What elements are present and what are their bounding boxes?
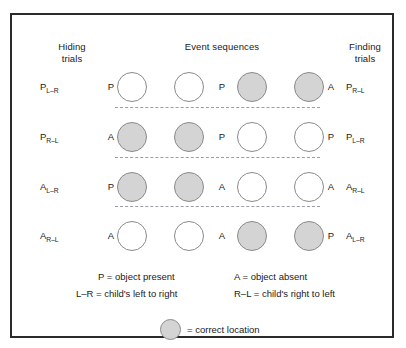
event-circle: [117, 72, 147, 102]
event-circle: [117, 122, 147, 152]
finding-trial-code-sub: L–R: [352, 137, 364, 144]
trial-row: AR–L A A P AL–R: [24, 212, 406, 260]
trial-row: PR–L A P P PL–R: [24, 113, 406, 161]
event-mid-label: A: [214, 212, 230, 260]
hiding-trial-code-sub: R–L: [46, 236, 58, 243]
event-circle: [294, 122, 324, 152]
finding-trial-pa: P: [322, 113, 340, 161]
figure-canvas: Hidingtrials Event sequences Findingtria…: [0, 0, 406, 348]
event-circle: [117, 172, 147, 202]
legend-correct-location: = correct location: [160, 318, 260, 340]
hiding-trial-code-sub: R–L: [46, 137, 58, 144]
event-circle: [237, 72, 267, 102]
legend-left-to-right: L–R = child's left to right: [76, 288, 177, 299]
event-circle: [294, 72, 324, 102]
event-circle: [294, 221, 324, 251]
trial-row: AL–R P A A AR–L: [24, 163, 406, 211]
legend-object-absent: A = object absent: [234, 271, 307, 282]
hiding-trial-code-sub: L–R: [46, 87, 58, 94]
hiding-trial-code-sub: L–R: [46, 187, 58, 194]
figure-frame: Hidingtrials Event sequences Findingtria…: [10, 13, 394, 338]
finding-trial-code-sub: L–R: [352, 236, 364, 243]
event-sequence-band: A: [116, 212, 338, 260]
event-circle: [174, 72, 204, 102]
column-header-event-sequences: Event sequences: [140, 41, 304, 53]
finding-trial-pa: A: [322, 63, 340, 111]
legend-right-to-left: R–L = child's right to left: [234, 288, 335, 299]
event-sequence-band: P: [116, 113, 338, 161]
legend-gray-circle-icon: [160, 319, 181, 340]
hiding-trial-code: PL–R: [40, 63, 94, 115]
event-mid-label: P: [214, 63, 230, 111]
finding-trial-code-sub: R–L: [352, 87, 364, 94]
finding-trial-code: AL–R: [346, 212, 400, 264]
event-circle: [237, 221, 267, 251]
finding-trial-pa: A: [322, 163, 340, 211]
finding-trial-code: AR–L: [346, 163, 400, 215]
finding-trial-code: PR–L: [346, 63, 400, 115]
event-circle: [237, 122, 267, 152]
hiding-trial-code: PR–L: [40, 113, 94, 165]
event-circle: [174, 221, 204, 251]
finding-trial-code-sub: R–L: [352, 187, 364, 194]
hiding-trial-code: AL–R: [40, 163, 94, 215]
event-sequence-band: A: [116, 163, 338, 211]
event-circle: [237, 172, 267, 202]
legend-correct-location-label: = correct location: [187, 324, 260, 335]
column-header-finding-trials: Findingtrials: [330, 41, 400, 64]
column-header-hiding-trials: Hidingtrials: [32, 41, 112, 64]
event-circle: [174, 172, 204, 202]
trial-row: PL–R P P A PR–L: [24, 63, 406, 111]
event-mid-label: A: [214, 163, 230, 211]
finding-trial-code: PL–R: [346, 113, 400, 165]
event-circle: [117, 221, 147, 251]
event-sequence-band: P: [116, 63, 338, 111]
event-mid-label: P: [214, 113, 230, 161]
legend-object-present: P = object present: [98, 271, 175, 282]
hiding-trial-code: AR–L: [40, 212, 94, 264]
event-circle: [294, 172, 324, 202]
finding-trial-pa: P: [322, 212, 340, 260]
event-circle: [174, 122, 204, 152]
